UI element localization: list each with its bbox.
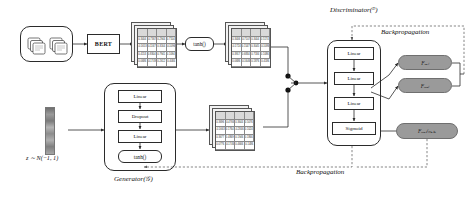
output-pill-fake-label: Fₑₐₗ — [399, 56, 451, 69]
output-pill-fake[interactable]: Fₑₐₗ — [398, 55, 452, 70]
output-pill-real-fake[interactable]: Fᵣₑₐₗ/ₘₐₖₑ — [396, 123, 458, 139]
diagram-canvas: BERT 0.3404-0.73670.29440.7104-0.16530.1… — [0, 0, 471, 204]
output-pill-real[interactable]: Fᵣₑₐₗ — [398, 78, 452, 93]
output-pill-real-label: Fᵣₑₐₗ — [399, 79, 451, 92]
output-pill-real-fake-label: Fᵣₑₐₗ/ₘₐₖₑ — [397, 124, 457, 138]
backpropagation-top-label: Backpropagation — [381, 28, 429, 36]
backpropagation-bottom-label: Backpropagation — [296, 168, 344, 176]
